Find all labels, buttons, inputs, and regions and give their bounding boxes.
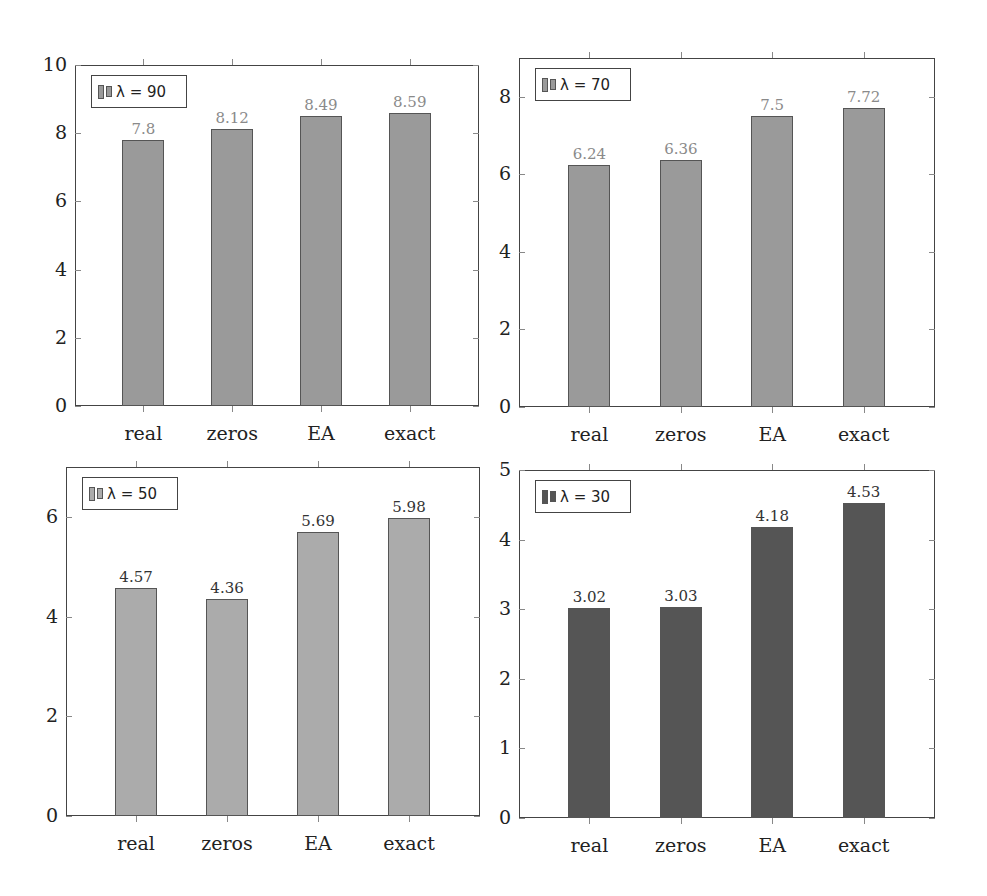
bar-ea: [751, 527, 793, 818]
y-tick-mark: [473, 270, 479, 271]
bar-value-label: 7.72: [824, 88, 904, 106]
y-tick-label: 8: [481, 86, 511, 106]
legend: λ = 90: [91, 75, 187, 108]
x-tick-label: zeros: [636, 834, 726, 856]
y-tick-label: 4: [28, 606, 58, 626]
y-tick-label: 0: [481, 396, 511, 416]
legend-bar-icon: [542, 78, 548, 92]
bar-value-label: 3.02: [549, 588, 629, 606]
bar-ea: [297, 532, 339, 816]
bar-value-label: 8.49: [281, 96, 361, 114]
x-tick-mark: [227, 816, 228, 822]
x-tick-mark: [772, 464, 773, 470]
y-tick-mark: [66, 716, 72, 717]
bar-zeros: [211, 129, 253, 406]
y-tick-mark: [474, 816, 480, 817]
x-tick-mark: [143, 406, 144, 412]
y-tick-mark: [929, 748, 935, 749]
x-tick-label: real: [544, 423, 634, 445]
y-tick-mark: [75, 338, 81, 339]
x-tick-mark: [232, 406, 233, 412]
x-tick-mark: [772, 52, 773, 58]
x-tick-label: exact: [819, 423, 909, 445]
y-tick-mark: [474, 617, 480, 618]
y-tick-mark: [929, 470, 935, 471]
x-tick-mark: [410, 406, 411, 412]
y-tick-mark: [519, 679, 525, 680]
y-tick-label: 2: [481, 318, 511, 338]
x-tick-mark: [589, 407, 590, 413]
y-tick-mark: [519, 97, 525, 98]
x-tick-label: EA: [727, 834, 817, 856]
bar-value-label: 6.24: [549, 145, 629, 163]
y-tick-mark: [929, 609, 935, 610]
y-tick-mark: [929, 540, 935, 541]
y-tick-label: 1: [481, 737, 511, 757]
y-tick-label: 0: [37, 395, 67, 415]
y-tick-mark: [519, 329, 525, 330]
x-tick-mark: [318, 461, 319, 467]
y-tick-mark: [519, 407, 525, 408]
bar-exact: [843, 108, 885, 407]
x-tick-mark: [318, 816, 319, 822]
y-tick-mark: [929, 174, 935, 175]
x-tick-mark: [681, 818, 682, 824]
x-tick-label: EA: [276, 422, 366, 444]
y-tick-label: 0: [28, 805, 58, 825]
legend-label: λ = 90: [116, 83, 166, 101]
legend-bar-icon: [98, 85, 104, 99]
x-tick-mark: [409, 461, 410, 467]
x-tick-label: exact: [364, 832, 454, 854]
y-tick-mark: [75, 201, 81, 202]
x-tick-mark: [589, 464, 590, 470]
legend-bar-icon: [97, 488, 103, 499]
legend: λ = 30: [535, 480, 631, 513]
bar-real: [568, 608, 610, 818]
x-tick-label: real: [91, 832, 181, 854]
y-tick-label: 2: [37, 327, 67, 347]
legend-bar-icon: [106, 86, 112, 97]
y-tick-mark: [519, 540, 525, 541]
bar-value-label: 4.36: [187, 579, 267, 597]
bar-real: [122, 140, 164, 406]
legend-bar-icon: [542, 490, 548, 504]
y-tick-label: 2: [28, 705, 58, 725]
bar-value-label: 8.59: [370, 93, 450, 111]
y-tick-mark: [473, 133, 479, 134]
y-tick-label: 8: [37, 122, 67, 142]
x-tick-mark: [589, 818, 590, 824]
legend-bar-icon: [89, 487, 95, 501]
y-tick-mark: [473, 338, 479, 339]
y-tick-label: 5: [481, 459, 511, 479]
bar-exact: [389, 113, 431, 406]
x-tick-mark: [681, 464, 682, 470]
bar-real: [568, 165, 610, 407]
y-tick-mark: [66, 617, 72, 618]
x-tick-label: real: [544, 834, 634, 856]
y-tick-mark: [473, 406, 479, 407]
y-tick-mark: [519, 818, 525, 819]
bar-real: [115, 588, 157, 816]
bar-value-label: 8.12: [192, 109, 272, 127]
y-tick-label: 4: [481, 529, 511, 549]
x-tick-mark: [681, 407, 682, 413]
y-tick-mark: [473, 65, 479, 66]
x-tick-label: zeros: [187, 422, 277, 444]
bar-ea: [300, 116, 342, 406]
y-tick-mark: [75, 65, 81, 66]
legend-label: λ = 50: [107, 485, 157, 503]
x-tick-label: exact: [365, 422, 455, 444]
y-tick-mark: [519, 748, 525, 749]
y-tick-mark: [473, 201, 479, 202]
legend-label: λ = 70: [560, 76, 610, 94]
x-tick-mark: [410, 59, 411, 65]
legend-bar-icon: [550, 491, 556, 502]
bar-value-label: 5.69: [278, 512, 358, 530]
y-tick-mark: [929, 407, 935, 408]
x-tick-mark: [589, 52, 590, 58]
y-tick-mark: [66, 517, 72, 518]
y-tick-mark: [929, 818, 935, 819]
x-tick-mark: [864, 464, 865, 470]
x-tick-mark: [864, 52, 865, 58]
y-tick-label: 3: [481, 598, 511, 618]
